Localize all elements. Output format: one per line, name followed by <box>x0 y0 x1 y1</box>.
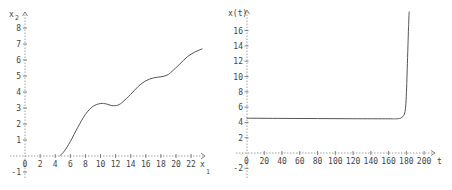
x-tick-label: 0 <box>244 157 249 166</box>
x-tick-label: 160 <box>381 157 396 166</box>
x-tick-label: 14 <box>126 160 136 169</box>
y-tick-label: 4 <box>16 88 21 97</box>
x-tick-label: 18 <box>156 160 166 169</box>
left-plot: 0246810121416182022 -112345678 x 2 x 1 <box>9 10 210 178</box>
x-tick-label: 22 <box>186 160 196 169</box>
y-tick-label: 8 <box>238 88 243 97</box>
left-series-line <box>60 49 203 156</box>
y-tick-label: -1 <box>11 168 21 177</box>
left-y-axis-subscript: 2 <box>15 14 19 22</box>
right-series-line <box>247 11 410 118</box>
y-tick-label: 6 <box>238 103 243 112</box>
x-tick-label: 60 <box>295 157 305 166</box>
right-x-axis-label: t <box>437 157 442 166</box>
y-tick-label: 3 <box>16 104 21 113</box>
y-tick-label: 4 <box>238 118 243 127</box>
y-tick-label: -2 <box>233 164 243 173</box>
y-tick-label: 2 <box>16 120 21 129</box>
left-y-axis-label: x <box>9 10 14 19</box>
y-tick-label: 5 <box>16 72 21 81</box>
y-tick-label: 12 <box>233 57 243 66</box>
x-tick-label: 10 <box>96 160 106 169</box>
y-tick-label: 10 <box>233 73 243 82</box>
x-tick-label: 40 <box>277 157 287 166</box>
x-tick-label: 6 <box>68 160 73 169</box>
x-tick-label: 20 <box>259 157 269 166</box>
y-tick-label: 16 <box>233 27 243 36</box>
x-tick-label: 120 <box>346 157 361 166</box>
y-tick-label: 1 <box>16 136 21 145</box>
x-tick-label: 20 <box>171 160 181 169</box>
y-tick-label: 7 <box>16 40 21 49</box>
x-tick-label: 2 <box>38 160 43 169</box>
y-tick-label: 6 <box>16 56 21 65</box>
x-tick-label: 180 <box>399 157 414 166</box>
right-plot: 020406080100120140160180200 -22468101214… <box>228 9 442 178</box>
x-tick-label: 12 <box>111 160 121 169</box>
left-y-ticks: -112345678 <box>11 24 27 177</box>
right-y-ticks: -2246810121416 <box>233 27 248 174</box>
x-tick-label: 0 <box>23 160 28 169</box>
figure: 0246810121416182022 -112345678 x 2 x 1 0… <box>0 0 452 190</box>
x-tick-label: 80 <box>313 157 323 166</box>
x-tick-label: 100 <box>328 157 343 166</box>
y-tick-label: 2 <box>238 134 243 143</box>
right-y-axis-label: x(t) <box>228 9 247 18</box>
x-tick-label: 8 <box>83 160 88 169</box>
left-x-axis-label: x <box>200 160 205 169</box>
y-tick-label: 8 <box>16 24 21 33</box>
x-tick-label: 140 <box>364 157 379 166</box>
x-tick-label: 200 <box>417 157 432 166</box>
x-tick-label: 16 <box>141 160 151 169</box>
y-tick-label: 14 <box>233 42 243 51</box>
x-tick-label: 4 <box>53 160 58 169</box>
left-x-axis-subscript: 1 <box>206 168 210 176</box>
